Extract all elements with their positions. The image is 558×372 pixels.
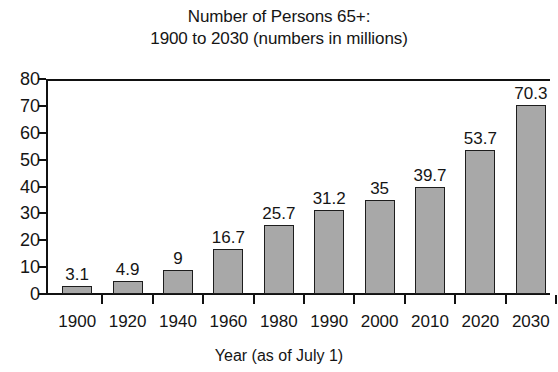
x-axis-tick	[404, 295, 406, 304]
bar-value-label: 53.7	[450, 129, 510, 148]
x-axis-title: Year (as of July 1)	[0, 346, 558, 366]
x-axis-tick	[101, 295, 103, 304]
bar-value-label: 16.7	[198, 228, 258, 247]
x-axis-tick	[202, 295, 204, 304]
bar	[365, 200, 395, 294]
chart-title-line-2: 1900 to 2030 (numbers in millions)	[0, 28, 558, 50]
y-axis-tick-label: 30	[0, 204, 40, 222]
y-axis-tick-label: 20	[0, 231, 40, 249]
bar-value-label: 9	[148, 249, 208, 268]
chart-title: Number of Persons 65+: 1900 to 2030 (num…	[0, 6, 558, 50]
y-axis-tick-label: 70	[0, 97, 40, 115]
bar-value-label: 39.7	[400, 166, 460, 185]
y-axis-tick-label: 40	[0, 178, 40, 196]
x-axis-tick	[505, 295, 507, 304]
y-axis-tick-label: 10	[0, 258, 40, 276]
bar	[415, 187, 445, 294]
y-axis-tick-label: 60	[0, 124, 40, 142]
bar	[465, 150, 495, 294]
bar	[516, 105, 546, 294]
y-axis-tick-label: 80	[0, 70, 40, 88]
y-axis-tick-label: 50	[0, 151, 40, 169]
x-axis-tick-label: 2030	[501, 312, 558, 332]
x-axis-tick	[353, 295, 355, 304]
bar-value-label: 70.3	[501, 84, 558, 103]
x-axis-tick	[253, 295, 255, 304]
x-axis-tick	[555, 295, 557, 304]
x-axis-tick	[152, 295, 154, 304]
chart-title-line-1: Number of Persons 65+:	[0, 6, 558, 28]
bar	[314, 210, 344, 294]
x-axis-tick	[303, 295, 305, 304]
x-axis-tick	[454, 295, 456, 304]
bar	[62, 286, 92, 294]
bar-chart: Number of Persons 65+: 1900 to 2030 (num…	[0, 0, 558, 372]
bar	[163, 270, 193, 294]
bar	[113, 281, 143, 294]
y-axis-tick-label: 0	[0, 285, 40, 303]
bar	[264, 225, 294, 294]
bar	[213, 249, 243, 294]
